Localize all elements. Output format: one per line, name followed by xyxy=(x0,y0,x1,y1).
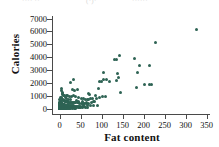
data-point xyxy=(119,91,122,94)
data-point xyxy=(143,83,146,86)
x-axis-label: Fat content xyxy=(52,131,212,143)
data-point xyxy=(92,104,95,107)
x-tick-mark xyxy=(186,114,187,119)
x-tick-label: 350 xyxy=(195,120,219,130)
clipped-header-fragment: ···· ·· (·)· ······ xyxy=(0,0,219,5)
data-point xyxy=(148,64,151,67)
data-point xyxy=(104,95,107,98)
x-tick-mark xyxy=(60,114,61,119)
y-tick-label: 6000 xyxy=(17,26,47,36)
header-fragment-c: ······ xyxy=(132,0,148,5)
data-point xyxy=(113,58,116,61)
data-point xyxy=(138,64,141,67)
x-tick-mark xyxy=(144,114,145,119)
data-point xyxy=(108,80,111,83)
y-tick-label: 4000 xyxy=(17,52,47,62)
y-tick-label: 1000 xyxy=(17,91,47,101)
data-point xyxy=(136,71,139,74)
data-point xyxy=(154,41,157,44)
data-point xyxy=(135,86,138,89)
header-fragment-b: (·)· xyxy=(86,0,97,5)
data-point xyxy=(76,88,79,91)
y-tick-label: 2000 xyxy=(17,78,47,88)
header-fragment-a: ···· ·· xyxy=(22,0,40,5)
x-tick-mark xyxy=(207,114,208,119)
data-point xyxy=(102,71,105,74)
data-point xyxy=(61,107,64,110)
scatter-chart-figure: ···· ·· (·)· ······ Calories Fat content… xyxy=(0,0,219,147)
y-tick-label: 7000 xyxy=(17,14,47,24)
data-point xyxy=(150,83,153,86)
data-point xyxy=(93,100,96,103)
x-tick-mark xyxy=(81,114,82,119)
y-tick-label: 0 xyxy=(17,104,47,114)
data-point xyxy=(64,96,67,99)
data-point xyxy=(74,107,77,110)
x-tick-mark xyxy=(123,114,124,119)
x-tick-mark xyxy=(102,114,103,119)
data-point xyxy=(116,72,119,75)
data-point xyxy=(97,87,100,90)
data-point xyxy=(118,54,121,57)
y-tick-label: 5000 xyxy=(17,39,47,49)
data-point xyxy=(72,78,75,81)
data-point xyxy=(96,104,99,107)
data-point xyxy=(117,76,120,79)
data-point xyxy=(69,81,72,84)
data-point xyxy=(115,79,118,82)
data-point xyxy=(98,80,101,83)
plot-area xyxy=(52,16,210,114)
data-point xyxy=(86,106,89,109)
data-point xyxy=(88,93,91,96)
x-tick-mark xyxy=(165,114,166,119)
data-point xyxy=(77,100,80,103)
data-point xyxy=(195,28,198,31)
y-tick-label: 3000 xyxy=(17,65,47,75)
data-point xyxy=(133,57,136,60)
